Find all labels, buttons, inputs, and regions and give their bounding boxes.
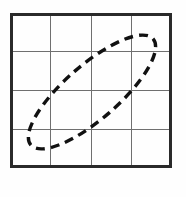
figure-root: Dashed tilted ellipse inscribed on a 4 b…	[0, 0, 186, 197]
ellipse-grid-figure: Dashed tilted ellipse inscribed on a 4 b…	[0, 0, 186, 197]
